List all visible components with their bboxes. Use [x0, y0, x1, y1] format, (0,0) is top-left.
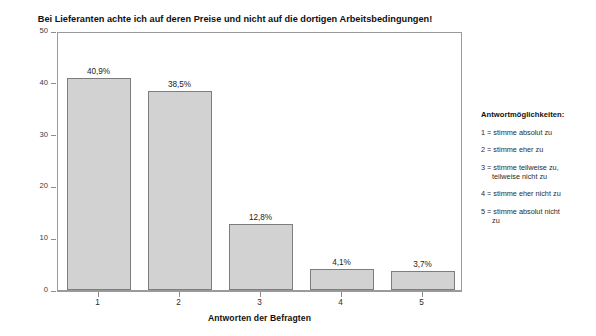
bar	[67, 78, 131, 290]
legend-item-label-continued: teilweise nicht zu	[481, 172, 593, 181]
legend-item-label: 2 = stimme eher zu	[481, 145, 543, 154]
legend-item-list: 1 = stimme absolut zu2 = stimme eher zu3…	[481, 128, 593, 225]
bar	[391, 271, 455, 290]
y-tick-label: 30	[26, 130, 48, 139]
legend-item-label: 5 = stimme absolut nicht	[481, 207, 560, 216]
legend-item: 1 = stimme absolut zu	[481, 128, 593, 137]
y-tick-label: 40	[26, 78, 48, 87]
bar	[310, 269, 374, 290]
bar	[148, 91, 212, 290]
legend-title: Antwortmöglichkeiten:	[481, 110, 593, 119]
legend-item-label: 3 = stimme teilweise zu,	[481, 163, 559, 172]
x-tick-label: 4	[326, 298, 356, 307]
x-tick-mark	[98, 292, 99, 297]
x-tick-mark	[260, 292, 261, 297]
x-tick-label: 2	[164, 298, 194, 307]
legend-item: 4 = stimme eher nicht zu	[481, 189, 593, 198]
y-tick-mark	[51, 291, 56, 292]
legend-item: 5 = stimme absolut nichtzu	[481, 207, 593, 226]
y-tick-label: 50	[26, 26, 48, 35]
x-tick-label: 1	[83, 298, 113, 307]
y-tick-mark	[51, 187, 56, 188]
y-tick-label: 10	[26, 233, 48, 242]
bar-value-label: 3,7%	[393, 260, 453, 269]
x-tick-mark	[341, 292, 342, 297]
x-tick-label: 5	[407, 298, 437, 307]
y-tick-mark	[51, 32, 56, 33]
plot-area: 40,9%38,5%12,8%4,1%3,7%	[58, 33, 461, 290]
bar-value-label: 4,1%	[312, 258, 372, 267]
legend-item-label-continued: zu	[481, 216, 593, 225]
chart-title: Bei Lieferanten achte ich auf deren Prei…	[0, 14, 470, 24]
y-tick-label: 20	[26, 181, 48, 190]
y-tick-label: 0	[26, 285, 48, 294]
x-tick-mark	[179, 292, 180, 297]
legend-item-label: 4 = stimme eher nicht zu	[481, 189, 561, 198]
bar-value-label: 12,8%	[231, 213, 291, 222]
legend-item: 3 = stimme teilweise zu,teilweise nicht …	[481, 163, 593, 182]
x-axis-label: Antworten der Befragten	[57, 313, 462, 323]
answer-key-legend: Antwortmöglichkeiten: 1 = stimme absolut…	[481, 110, 593, 233]
bar-value-label: 38,5%	[150, 80, 210, 89]
plot-frame: 40,9%38,5%12,8%4,1%3,7%	[57, 32, 462, 291]
bar-value-label: 40,9%	[69, 67, 129, 76]
bar	[229, 224, 293, 290]
y-tick-mark	[51, 135, 56, 136]
legend-item: 2 = stimme eher zu	[481, 145, 593, 154]
y-tick-mark	[51, 239, 56, 240]
x-tick-label: 3	[245, 298, 275, 307]
y-tick-mark	[51, 83, 56, 84]
x-tick-mark	[422, 292, 423, 297]
legend-item-label: 1 = stimme absolut zu	[481, 128, 552, 137]
chart-container: Bei Lieferanten achte ich auf deren Prei…	[0, 0, 596, 336]
